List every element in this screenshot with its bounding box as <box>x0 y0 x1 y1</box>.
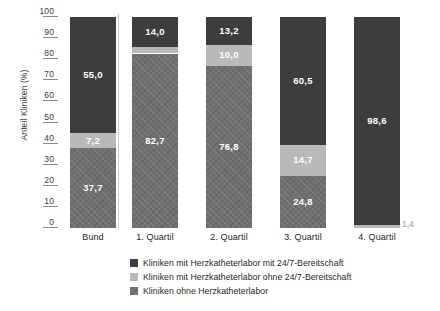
legend-swatch-icon <box>130 259 138 267</box>
stacked-bar[interactable]: 55,07,237,7 <box>70 0 116 311</box>
bar-segment-value: 24,8 <box>293 197 312 207</box>
legend-item[interactable]: Kliniken mit Herzkatheterlabor mit 24/7-… <box>130 256 351 270</box>
x-axis-category-label: 2. Quartil <box>206 232 252 242</box>
chart-legend: Kliniken mit Herzkatheterlabor mit 24/7-… <box>130 256 351 298</box>
stacked-bar[interactable]: 98,6 <box>354 0 400 311</box>
y-axis-tick-label: 20 <box>44 176 54 185</box>
bar-group[interactable]: 55,07,237,7Bund <box>70 0 116 311</box>
bar-segment-ohne-hkl[interactable]: 24,8 <box>280 176 326 228</box>
bar-segment-mit-247[interactable]: 13,2 <box>206 17 252 45</box>
x-axis-category-label: Bund <box>70 232 116 242</box>
bar-segment-value: 7,2 <box>86 136 100 146</box>
bar-segment-mit-247[interactable]: 55,0 <box>70 17 116 133</box>
bar-segment-ohne-hkl[interactable]: 82,7 <box>132 54 178 228</box>
bar-group[interactable]: 98,61,44. Quartil <box>354 0 400 311</box>
x-axis-category-label: 1. Quartil <box>132 232 178 242</box>
bar-segment-value: 76,8 <box>219 142 238 152</box>
bar-segment-value: 55,0 <box>83 70 102 80</box>
bar-segment-value: 10,0 <box>219 50 238 60</box>
y-axis-tick-label: 60 <box>44 91 54 100</box>
bar-segment-ohne-hkl[interactable]: 76,8 <box>206 66 252 228</box>
bar-segment-value: 13,2 <box>219 26 238 36</box>
legend-item[interactable]: Kliniken ohne Herzkatheterlabor <box>130 284 351 298</box>
group-divider <box>118 14 119 228</box>
bar-segment-ohne-hkl[interactable]: 37,7 <box>70 148 116 228</box>
bar-outside-value: 1,4 <box>402 219 414 229</box>
bar-segment-mit-247[interactable]: 60,5 <box>280 17 326 145</box>
legend-item-label: Kliniken mit Herzkatheterlabor mit 24/7-… <box>143 258 344 268</box>
y-axis-tick-label: 90 <box>44 28 54 37</box>
y-axis-tick-label: 0 <box>49 218 54 227</box>
bar-segment-ohne-247[interactable] <box>132 47 178 54</box>
bar-segment-mit-247[interactable]: 14,0 <box>132 17 178 47</box>
bar-segment-ohne-247[interactable]: 7,2 <box>70 133 116 148</box>
legend-item-label: Kliniken mit Herzkatheterlabor ohne 24/7… <box>143 272 351 282</box>
bar-segment-value: 37,7 <box>83 183 102 193</box>
y-axis-tick-label: 50 <box>44 113 54 122</box>
y-axis-tick-label: 10 <box>44 197 54 206</box>
bar-segment-value: 14,0 <box>145 27 164 37</box>
bar-segment-value: 98,6 <box>367 116 386 126</box>
y-axis-tick-label: 30 <box>44 155 54 164</box>
legend-item[interactable]: Kliniken mit Herzkatheterlabor ohne 24/7… <box>130 270 351 284</box>
bar-segment-ohne-247[interactable]: 14,7 <box>280 145 326 176</box>
legend-swatch-icon <box>130 287 138 295</box>
y-axis-ticks: 1009080706050403020100 <box>26 0 58 311</box>
bar-segment-mit-247[interactable]: 98,6 <box>354 17 400 225</box>
stacked-bar-chart: Anteil Kliniken (%) 10090807060504030201… <box>0 0 440 311</box>
bar-segment-value: 60,5 <box>293 76 312 86</box>
y-axis-tick-label: 100 <box>40 7 54 16</box>
bar-segment-ohne-247[interactable] <box>354 225 400 228</box>
bar-segment-ohne-247[interactable]: 10,0 <box>206 45 252 66</box>
y-axis-tick-label: 70 <box>44 70 54 79</box>
bar-segment-value: 82,7 <box>145 136 164 146</box>
x-axis-category-label: 3. Quartil <box>280 232 326 242</box>
y-axis-tick-label: 40 <box>44 134 54 143</box>
y-axis-tick-label: 80 <box>44 49 54 58</box>
bar-segment-value: 14,7 <box>293 155 312 165</box>
legend-item-label: Kliniken ohne Herzkatheterlabor <box>143 286 268 296</box>
legend-swatch-icon <box>130 273 138 281</box>
x-axis-category-label: 4. Quartil <box>354 232 400 242</box>
